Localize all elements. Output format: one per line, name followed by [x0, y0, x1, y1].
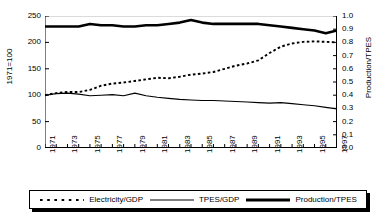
plot-svg	[45, 16, 337, 148]
x-tick-label: 1997	[341, 135, 349, 153]
series-line-electricity-gdp	[45, 41, 337, 95]
y-tick-label-right: 0.9	[342, 25, 368, 33]
legend-label-tpes-gdp: TPES/GDP	[199, 196, 239, 204]
y-tick-label-left: 100	[15, 91, 41, 99]
y-tick-label-right: 0.5	[342, 78, 368, 86]
legend-item-electricity-gdp: Electricity/GDP	[39, 196, 143, 204]
legend-label-production-tpes: Production/TPES	[295, 196, 356, 204]
legend-item-production-tpes: Production/TPES	[245, 196, 356, 204]
legend-item-tpes-gdp: TPES/GDP	[149, 196, 239, 204]
y-tick-label-right: 0.2	[342, 118, 368, 126]
plot-area	[45, 16, 337, 148]
legend-swatch-thin-line-icon	[149, 196, 195, 204]
chart-container: 1971=100 Production/TPES 050100150200250…	[0, 0, 388, 219]
legend-label-electricity-gdp: Electricity/GDP	[89, 196, 143, 204]
y-tick-label-left: 250	[15, 12, 41, 20]
y-tick-label-right: 0.6	[342, 65, 368, 73]
y-tick-label-left: 0	[15, 144, 41, 152]
y-tick-label-right: 0.8	[342, 38, 368, 46]
legend-swatch-thick-line-icon	[245, 196, 291, 204]
y-tick-label-left: 50	[15, 118, 41, 126]
series-line-tpes-gdp	[45, 93, 337, 109]
y-tick-label-right: 1.0	[342, 12, 368, 20]
plot-frame	[45, 16, 337, 148]
y-tick-label-left: 200	[15, 38, 41, 46]
y-tick-label-right: 0.7	[342, 52, 368, 60]
chart-legend: Electricity/GDP TPES/GDP Production/TPES	[29, 190, 367, 209]
y-axis-left-title: 1971=100	[5, 37, 14, 97]
y-tick-label-left: 150	[15, 65, 41, 73]
y-tick-label-right: 0.4	[342, 91, 368, 99]
series-line-production-tpes	[45, 20, 337, 33]
left-tick-marks	[45, 16, 49, 148]
legend-swatch-dotted-icon	[39, 196, 85, 204]
y-tick-label-right: 0.3	[342, 104, 368, 112]
